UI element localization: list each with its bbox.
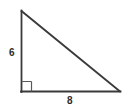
- triangle-graphic: [0, 0, 125, 108]
- horizontal-leg-length-label: 8: [67, 96, 73, 106]
- vertical-leg-length-label: 6: [9, 48, 15, 58]
- right-triangle-figure: 6 8: [0, 0, 125, 108]
